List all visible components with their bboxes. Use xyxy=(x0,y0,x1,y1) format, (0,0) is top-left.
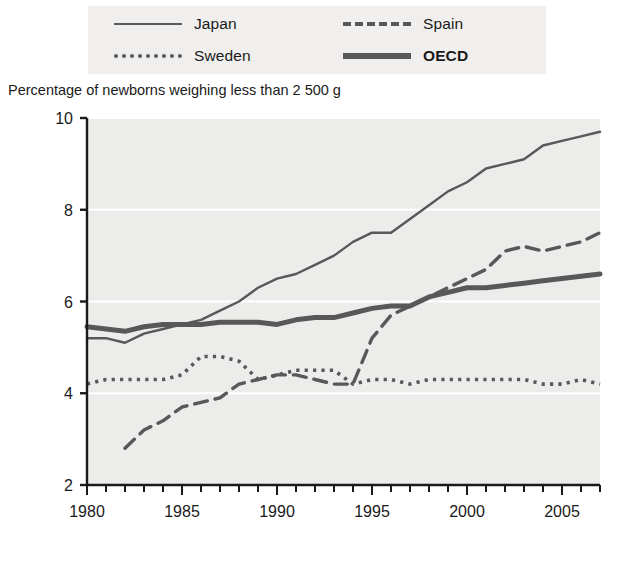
legend-item-oecd: OECD xyxy=(317,47,546,65)
legend-line-japan-icon xyxy=(114,17,182,31)
y-tick-label: 2 xyxy=(64,477,73,494)
legend-line-sweden-icon xyxy=(114,49,182,63)
x-tick-label: 2005 xyxy=(544,503,580,520)
legend-label-oecd: OECD xyxy=(423,47,468,65)
plot-area: 246810 198019851990199520002005 xyxy=(0,100,634,520)
x-tick-label: 1995 xyxy=(354,503,390,520)
x-tick-label: 1990 xyxy=(259,503,295,520)
legend-label-spain: Spain xyxy=(423,15,463,33)
chart-axis-title: Percentage of newborns weighing less tha… xyxy=(8,82,341,98)
legend-item-sweden: Sweden xyxy=(88,47,317,65)
chart-legend: Japan Spain Sweden OECD xyxy=(88,6,546,74)
legend-line-spain-icon xyxy=(343,17,411,31)
legend-line-oecd-icon xyxy=(343,49,411,63)
y-tick-label: 4 xyxy=(64,385,73,402)
legend-item-japan: Japan xyxy=(88,15,317,33)
legend-item-spain: Spain xyxy=(317,15,546,33)
y-tick-label: 10 xyxy=(55,110,73,127)
y-tick-label: 6 xyxy=(64,294,73,311)
line-chart-svg: 246810 198019851990199520002005 xyxy=(0,100,634,520)
y-tick-label: 8 xyxy=(64,202,73,219)
legend-label-japan: Japan xyxy=(194,15,237,33)
x-tick-label: 1980 xyxy=(69,503,105,520)
x-tick-label: 2000 xyxy=(449,503,485,520)
chart-figure: Japan Spain Sweden OECD Percentage of ne… xyxy=(0,0,634,567)
x-tick-labels-group: 198019851990199520002005 xyxy=(69,503,580,520)
legend-label-sweden: Sweden xyxy=(194,47,251,65)
y-tick-labels-group: 246810 xyxy=(55,110,73,494)
x-tick-label: 1985 xyxy=(164,503,200,520)
